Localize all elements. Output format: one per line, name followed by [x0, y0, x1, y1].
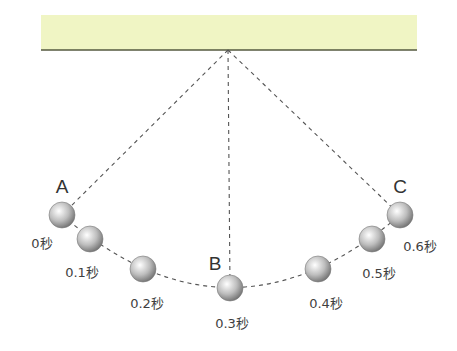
time-label: 0.1秒 [65, 262, 99, 281]
time-label: 0.3秒 [215, 313, 249, 332]
pendulum-ball [130, 256, 156, 282]
point-label-c: C [393, 176, 407, 198]
pendulum-ball [217, 275, 243, 301]
pendulum-ball [359, 226, 385, 252]
pendulum-ball [49, 202, 75, 228]
time-label: 0秒 [31, 233, 52, 252]
pendulum-ball [77, 226, 103, 252]
string-to-A [62, 50, 228, 215]
string-to-B [228, 50, 230, 288]
pendulum-ball [387, 202, 413, 228]
time-label: 0.5秒 [362, 263, 396, 282]
time-label: 0.6秒 [403, 236, 437, 255]
string-to-C [228, 50, 400, 215]
ceiling-bar [41, 15, 417, 50]
time-label: 0.2秒 [130, 293, 164, 312]
point-label-a: A [56, 176, 69, 198]
time-label: 0.4秒 [309, 293, 343, 312]
point-label-b: B [209, 253, 222, 275]
pendulum-balls [49, 202, 413, 301]
pendulum-ball [305, 256, 331, 282]
pendulum-diagram: 0秒A0.1秒0.2秒0.3秒B0.4秒0.5秒0.6秒C [0, 0, 457, 351]
